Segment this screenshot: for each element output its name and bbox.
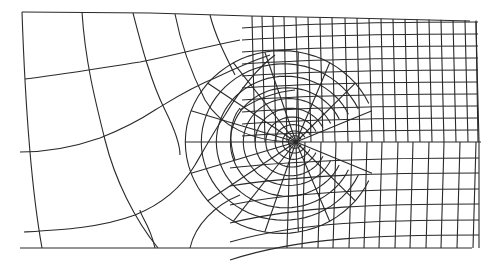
grid-column-upper [393,19,396,142]
grid-row-upper [242,22,478,28]
grid-row-upper [242,58,478,64]
crack-tip-mesh-diagram [0,0,501,262]
grid-column-upper [381,19,384,142]
grid-column-lower [364,142,367,248]
grid-row-lower [230,189,479,205]
grid-column-upper [284,17,287,142]
grid-row-lower [230,173,479,186]
grid-column-upper [453,20,456,142]
grid-column-lower [410,142,413,248]
grid-column-lower [379,142,382,248]
radial-spoke [208,142,296,201]
radial-spoke [296,142,298,232]
grid-column-upper [429,20,432,142]
grid-column-upper [405,19,408,142]
grid-column-upper [417,19,420,142]
grid-column-lower [395,142,398,248]
left-boundary [22,12,42,248]
grid-column-upper [441,20,444,142]
top-boundary [22,12,470,21]
grid-row-upper [242,34,478,40]
grid-column-upper [465,20,468,142]
grid-column-upper [369,18,372,142]
grid-column-upper [345,18,348,142]
grid-column-upper [357,18,360,142]
